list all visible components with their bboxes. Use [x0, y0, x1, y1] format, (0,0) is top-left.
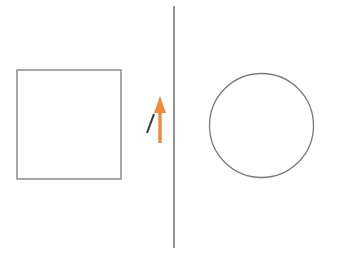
arrow-shaft	[158, 111, 161, 143]
canvas-background	[0, 0, 341, 254]
diagram-svg	[0, 0, 341, 254]
diagram-canvas	[0, 0, 341, 254]
